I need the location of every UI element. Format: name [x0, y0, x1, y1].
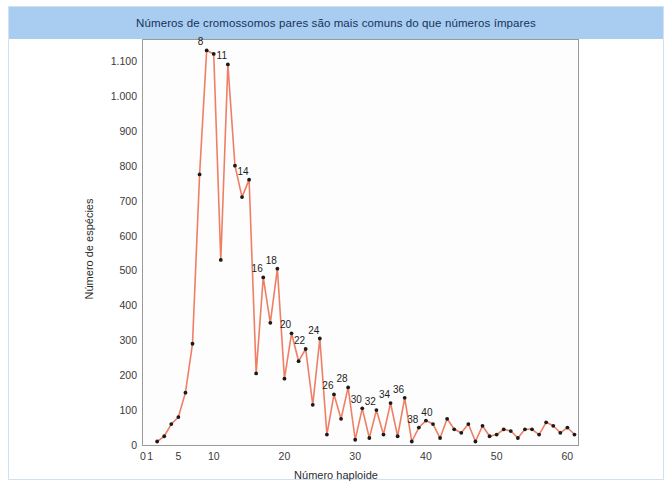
y-axis-tick: 500 — [119, 264, 137, 276]
data-point — [290, 331, 294, 335]
y-axis-label-wrapper: Número de espécies — [71, 47, 91, 447]
data-point — [275, 267, 279, 271]
figure-title: Números de cromossomos pares são mais co… — [136, 17, 536, 29]
data-point — [403, 396, 407, 400]
data-point-label: 20 — [280, 319, 291, 330]
x-axis-tick: 5 — [175, 450, 181, 462]
x-axis-tick: 40 — [420, 450, 432, 462]
data-point-label: 24 — [308, 325, 319, 336]
y-axis-tick: 100 — [119, 404, 137, 416]
data-point — [438, 436, 442, 440]
y-axis-tick: 1.000 — [111, 90, 137, 102]
y-axis-tick: 900 — [119, 125, 137, 137]
data-point — [452, 427, 456, 431]
x-axis-tick-labels: 015102030405060 — [9, 450, 663, 466]
data-point — [410, 440, 414, 444]
data-point-label: 28 — [336, 373, 347, 384]
data-point — [459, 431, 463, 435]
x-axis-tick: 50 — [491, 450, 503, 462]
data-point — [417, 426, 421, 430]
data-point — [318, 337, 322, 341]
y-axis-tick: 400 — [119, 299, 137, 311]
y-axis-label: Número de espécies — [83, 199, 95, 300]
data-point — [431, 422, 435, 426]
x-axis-tick: 60 — [562, 450, 574, 462]
data-point — [219, 258, 223, 262]
data-point — [268, 321, 272, 325]
data-point — [445, 417, 449, 421]
y-axis-tick: 200 — [119, 369, 137, 381]
data-point-markers — [155, 49, 576, 444]
y-axis-tick: 600 — [119, 230, 137, 242]
data-point — [169, 422, 173, 426]
figure-container: Números de cromossomos pares são mais co… — [8, 6, 664, 480]
data-point — [198, 173, 202, 177]
data-point-label: 11 — [217, 50, 227, 61]
data-point — [297, 359, 301, 363]
data-point — [551, 424, 555, 428]
x-axis-label: Número haploide — [9, 469, 663, 481]
x-axis-tick: 1 — [147, 450, 153, 462]
data-point — [346, 385, 350, 389]
x-axis-tick: 30 — [349, 450, 361, 462]
y-axis-tick: 300 — [119, 334, 137, 346]
data-point-label: 18 — [266, 255, 277, 266]
x-axis-tick: 10 — [208, 450, 220, 462]
data-point — [254, 372, 258, 376]
data-point — [247, 178, 251, 182]
data-point — [396, 434, 400, 438]
data-series-line — [157, 50, 574, 441]
y-axis-tick: 700 — [119, 195, 137, 207]
data-point-label: 36 — [393, 384, 404, 395]
y-axis-tick: 800 — [119, 160, 137, 172]
data-point — [184, 391, 188, 395]
data-point — [389, 401, 393, 405]
data-point-label: 8 — [198, 36, 204, 47]
data-point — [558, 431, 562, 435]
data-point-label: 26 — [322, 380, 333, 391]
data-point — [382, 433, 386, 437]
data-point — [481, 424, 485, 428]
data-point — [155, 440, 159, 444]
data-point — [311, 403, 315, 407]
data-point-label: 14 — [237, 166, 248, 177]
data-point — [495, 433, 499, 437]
data-point — [226, 63, 230, 67]
data-point — [304, 347, 308, 351]
data-point — [530, 427, 534, 431]
data-point — [233, 164, 237, 168]
data-point — [573, 433, 577, 437]
data-point — [424, 419, 428, 423]
data-point-label: 16 — [252, 263, 263, 274]
data-point — [162, 434, 166, 438]
data-point — [191, 342, 195, 346]
data-point-label: 38 — [407, 414, 418, 425]
data-point — [375, 408, 379, 412]
data-point — [339, 417, 343, 421]
data-point — [544, 420, 548, 424]
data-point — [283, 377, 287, 381]
data-point — [360, 406, 364, 410]
chart-svg — [143, 40, 578, 445]
data-point-label: 22 — [294, 335, 305, 346]
data-point — [509, 429, 513, 433]
data-point — [367, 436, 371, 440]
data-point — [523, 427, 527, 431]
data-point — [332, 392, 336, 396]
data-point — [488, 434, 492, 438]
data-point — [261, 276, 265, 280]
data-point — [353, 438, 357, 442]
x-axis-tick: 0 — [140, 450, 146, 462]
data-point — [176, 415, 180, 419]
x-axis-tick: 20 — [279, 450, 291, 462]
data-point-label: 34 — [379, 389, 390, 400]
data-point — [565, 426, 569, 430]
y-axis-tick: 1.100 — [111, 55, 137, 67]
data-point-label: 32 — [365, 396, 376, 407]
data-point-label: 40 — [421, 407, 432, 418]
data-point — [474, 440, 478, 444]
data-point — [212, 52, 216, 56]
data-point — [502, 427, 506, 431]
data-point — [466, 422, 470, 426]
data-point-label: 30 — [351, 394, 362, 405]
